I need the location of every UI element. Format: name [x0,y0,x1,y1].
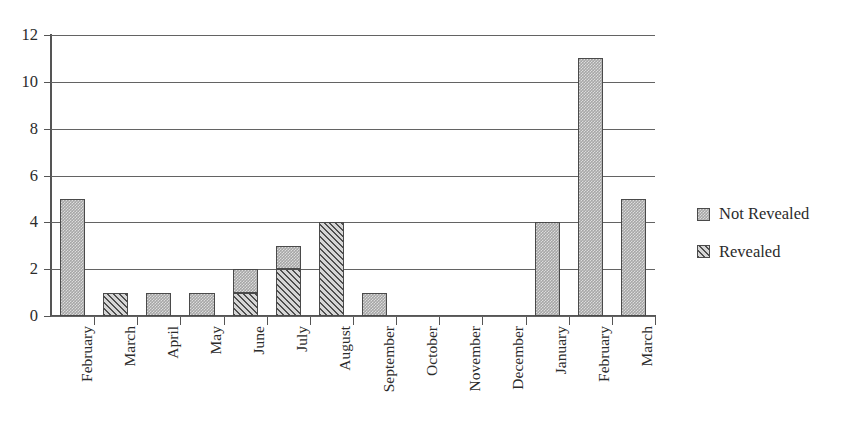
x-axis-label-text: January [553,326,569,374]
x-tick-mark [224,317,225,325]
bar-stack [362,35,387,316]
x-axis-label-text: March [122,326,138,366]
plot-area [51,35,655,316]
bar-segment [535,222,560,316]
legend-swatch-not-revealed-icon [697,208,710,221]
bar-segment [362,293,387,316]
y-tick-mark [44,269,51,270]
y-tick-mark [44,316,51,317]
x-tick-mark [612,317,613,325]
legend-item[interactable]: Not Revealed [697,206,857,223]
x-tick-mark [267,317,268,325]
x-tick-mark [94,317,95,325]
bar-segment [276,269,301,316]
y-tick-mark [44,82,51,83]
bar-segment [621,199,646,316]
bar-stack [578,35,603,316]
x-axis-label-text: March [639,326,655,366]
bar-stack [60,35,85,316]
x-tick-mark [439,317,440,325]
bar-segment [233,269,258,292]
bar-segment [103,293,128,316]
bar-segment [233,293,258,316]
bar-stack [276,35,301,316]
stacked-bar-chart: 024681012 FebruaryMarchAprilMayJuneJulyA… [0,0,859,432]
x-axis-label-text: November [467,326,483,391]
gridline [51,176,655,177]
bar-segment [146,293,171,316]
x-axis-label-text: April [165,326,181,359]
x-tick-mark [310,317,311,325]
bar-stack [146,35,171,316]
y-tick-label: 0 [0,308,38,325]
x-axis-label-text: June [251,326,267,354]
gridline [51,35,655,36]
y-tick-mark [44,35,51,36]
x-tick-mark [526,317,527,325]
x-axis-label-text: July [294,326,310,352]
bar-stack [189,35,214,316]
x-axis-label-text: May [208,326,224,354]
bar-segment [319,222,344,316]
x-tick-mark [137,317,138,325]
x-tick-mark [353,317,354,325]
bar-segment [276,246,301,269]
legend-swatch-revealed-icon [697,245,710,258]
y-tick-label: 8 [0,121,38,138]
bar-stack [103,35,128,316]
x-axis-label-text: October [424,326,440,376]
gridline [51,82,655,83]
y-tick-mark [44,222,51,223]
y-tick-label: 6 [0,168,38,185]
legend-label: Not Revealed [719,206,809,223]
bar-stack [621,35,646,316]
gridline [51,222,655,223]
x-tick-mark [569,317,570,325]
y-tick-label: 2 [0,261,38,278]
bar-stack [233,35,258,316]
y-tick-mark [44,176,51,177]
chart-legend: Not RevealedRevealed [697,206,857,281]
x-tick-mark [396,317,397,325]
x-axis-label-text: February [79,326,95,382]
legend-label: Revealed [719,244,780,261]
x-axis-label-text: December [510,326,526,390]
x-tick-mark [180,317,181,325]
bar-segment [578,58,603,316]
y-tick-label: 4 [0,214,38,231]
bar-segment [189,293,214,316]
bar-stack [535,35,560,316]
y-tick-label: 12 [0,27,38,44]
gridline [51,269,655,270]
bar-segment [60,199,85,316]
y-tick-label: 10 [0,74,38,91]
bar-stack [319,35,344,316]
x-tick-mark [655,317,656,325]
x-tick-mark [482,317,483,325]
gridline [51,129,655,130]
x-axis-label-text: September [381,326,397,392]
legend-item[interactable]: Revealed [697,244,857,261]
x-axis-label-text: August [337,326,353,371]
y-tick-mark [44,129,51,130]
x-axis-label-text: February [596,326,612,382]
